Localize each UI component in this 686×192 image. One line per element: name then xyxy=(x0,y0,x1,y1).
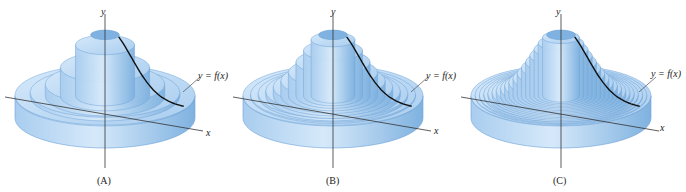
x-axis-label: x xyxy=(660,122,664,133)
panel-caption: (B) xyxy=(326,175,339,186)
curve-label: y = f(x) xyxy=(198,70,228,81)
panel-c: y y = f(x) x (C) xyxy=(456,0,686,192)
shells-solid-a xyxy=(0,0,230,192)
panel-a: y y = f(x) x (A) xyxy=(0,0,230,192)
y-axis-label: y xyxy=(331,6,335,17)
shells-solid-c xyxy=(456,0,686,192)
x-axis-label: x xyxy=(434,125,438,136)
panel-b: y y = f(x) x (B) xyxy=(228,0,458,192)
x-axis-label: x xyxy=(206,127,210,138)
shells-solid-b xyxy=(228,0,458,192)
panel-caption: (C) xyxy=(553,175,566,186)
curve-label: y = f(x) xyxy=(426,70,456,81)
curve-label: y = f(x) xyxy=(651,68,681,79)
y-axis-label: y xyxy=(101,6,105,17)
y-axis-label: y xyxy=(556,6,560,17)
panel-caption: (A) xyxy=(97,175,111,186)
